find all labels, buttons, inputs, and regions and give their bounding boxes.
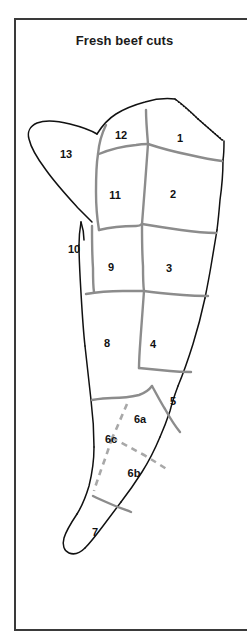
cut-label-9: 9 (108, 261, 114, 273)
cut-label-12: 12 (115, 129, 127, 141)
cut-label-6b: 6b (128, 467, 141, 479)
cut-label-2: 2 (170, 188, 176, 200)
cut-label-7: 7 (92, 526, 98, 538)
cut-label-6c: 6c (105, 433, 117, 445)
cut-label-13: 13 (60, 148, 72, 160)
carcass-body-fill (28, 98, 224, 553)
figure-root: Fresh beef cuts (0, 0, 247, 635)
cut-label-11: 11 (109, 189, 121, 201)
cut-label-5: 5 (170, 395, 176, 407)
cut-label-8: 8 (104, 337, 110, 349)
beef-cuts-diagram: 1 2 3 4 5 6a 6b 6c 7 8 9 10 11 12 13 (0, 0, 247, 635)
cut-label-10: 10 (68, 243, 80, 255)
cut-label-3: 3 (166, 262, 172, 274)
cut-label-6a: 6a (134, 413, 147, 425)
cut-label-1: 1 (177, 132, 183, 144)
cut-label-4: 4 (150, 338, 157, 350)
